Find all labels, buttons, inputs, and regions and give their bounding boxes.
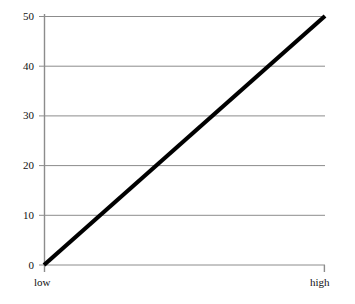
y-axis-tick-label-50: 50	[8, 11, 34, 22]
y-axis-tick-label-0: 0	[8, 260, 34, 271]
y-axis-tick-label-40: 40	[8, 61, 34, 72]
line-chart-plot	[0, 0, 355, 304]
chart-container: 50 40 30 20 10 0 low high	[0, 0, 355, 304]
y-axis-tick-label-10: 10	[8, 210, 34, 221]
y-axis-tick-label-20: 20	[8, 160, 34, 171]
y-axis-tick-label-30: 30	[8, 110, 34, 121]
x-axis-tick-label-low: low	[34, 277, 51, 288]
x-axis-tick-label-high: high	[310, 277, 330, 288]
